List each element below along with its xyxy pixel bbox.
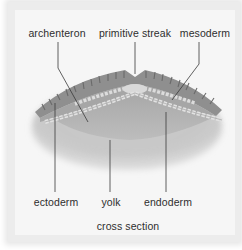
label-yolk: yolk [101, 196, 120, 208]
label-archenteron: archenteron [28, 27, 85, 39]
caption-cross-section: cross section [97, 220, 160, 232]
label-mesoderm: mesoderm [180, 27, 230, 39]
label-primitive-streak: primitive streak [99, 27, 171, 39]
label-ectoderm: ectoderm [34, 196, 79, 208]
label-endoderm: endoderm [144, 196, 192, 208]
